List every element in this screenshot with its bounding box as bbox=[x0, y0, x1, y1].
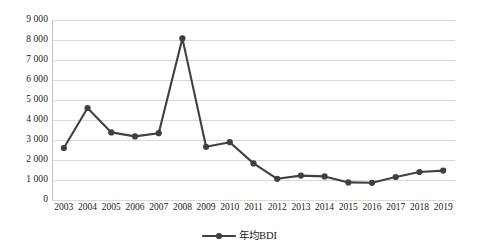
data-point bbox=[132, 133, 138, 139]
data-point bbox=[322, 173, 328, 179]
gridline bbox=[52, 200, 455, 201]
data-point bbox=[156, 130, 162, 136]
y-axis-tick-label: 4 000 bbox=[2, 115, 48, 125]
x-axis-tick-labels: 2003200420052006200720082009201020112012… bbox=[52, 203, 455, 221]
series-line-nianjun-bdi bbox=[52, 20, 455, 200]
y-axis-tick-label: 2 000 bbox=[2, 155, 48, 165]
y-axis-tick-label: 5 000 bbox=[2, 95, 48, 105]
x-axis-tick-label: 2006 bbox=[125, 203, 144, 213]
chart-container: 9 0008 0007 0006 0005 0004 0003 0002 000… bbox=[0, 0, 479, 251]
data-point bbox=[440, 168, 446, 174]
data-point bbox=[416, 169, 422, 175]
data-point bbox=[393, 174, 399, 180]
data-point bbox=[108, 129, 114, 135]
chart-legend: 年均BDI bbox=[0, 226, 479, 246]
x-axis-tick-label: 2017 bbox=[386, 203, 405, 213]
y-axis-tick-labels: 9 0008 0007 0006 0005 0004 0003 0002 000… bbox=[0, 0, 48, 251]
x-axis-tick-label: 2004 bbox=[78, 203, 97, 213]
data-point bbox=[250, 160, 256, 166]
data-point bbox=[298, 173, 304, 179]
x-axis-tick-label: 2015 bbox=[339, 203, 358, 213]
y-axis-tick-label: 3 000 bbox=[2, 135, 48, 145]
data-point bbox=[345, 179, 351, 185]
y-axis-tick-label: 0 bbox=[2, 195, 48, 205]
y-axis-tick-label: 1 000 bbox=[2, 175, 48, 185]
data-point bbox=[61, 145, 67, 151]
x-axis-tick-label: 2008 bbox=[173, 203, 192, 213]
x-axis-tick-label: 2010 bbox=[220, 203, 239, 213]
y-axis-tick-label: 8 000 bbox=[2, 35, 48, 45]
data-point bbox=[227, 139, 233, 145]
x-axis-tick-label: 2016 bbox=[363, 203, 382, 213]
y-axis-tick-label: 9 000 bbox=[2, 15, 48, 25]
x-axis-tick-label: 2013 bbox=[291, 203, 310, 213]
x-axis-tick-label: 2009 bbox=[197, 203, 216, 213]
series-markers bbox=[61, 35, 447, 186]
x-axis-tick-label: 2019 bbox=[434, 203, 453, 213]
plot-area bbox=[52, 20, 455, 200]
legend-label-nianjun-bdi: 年均BDI bbox=[239, 231, 277, 242]
data-point bbox=[369, 180, 375, 186]
x-axis-tick-label: 2003 bbox=[54, 203, 73, 213]
x-axis-tick-label: 2014 bbox=[315, 203, 334, 213]
x-axis-tick-label: 2011 bbox=[244, 203, 263, 213]
line-marker-icon bbox=[202, 230, 236, 242]
data-point bbox=[84, 105, 90, 111]
x-axis-tick-label: 2012 bbox=[268, 203, 287, 213]
y-axis-tick-label: 7 000 bbox=[2, 55, 48, 65]
x-axis-tick-label: 2018 bbox=[410, 203, 429, 213]
y-axis-tick-label: 6 000 bbox=[2, 75, 48, 85]
data-point bbox=[203, 144, 209, 150]
data-point bbox=[274, 176, 280, 182]
x-axis-tick-label: 2007 bbox=[149, 203, 168, 213]
data-point bbox=[179, 35, 185, 41]
x-axis-tick-label: 2005 bbox=[102, 203, 121, 213]
